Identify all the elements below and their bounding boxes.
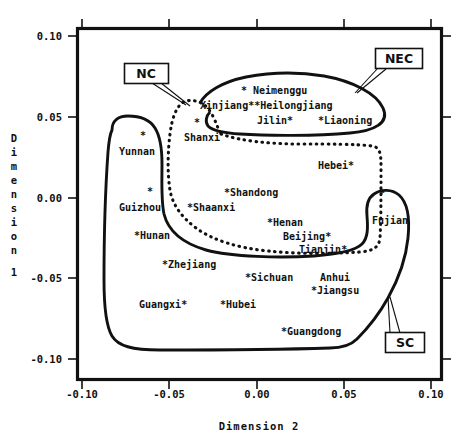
cluster-callout-sc: SC [386, 297, 425, 353]
cluster-callout-nec: NEC [355, 49, 423, 94]
cluster-callout-label-sc: SC [396, 335, 414, 350]
cluster-callout-label-nec: NEC [385, 51, 413, 66]
scatter-plot-figure: -0.10 -0.05 0.00 0.05 0.10 0.10 0.05 0.0… [0, 0, 456, 445]
cluster-callout-label-nc: NC [136, 66, 156, 81]
cluster-callout-nc: NC [125, 64, 191, 107]
cluster-callouts-layer: NC NEC SC [0, 0, 456, 445]
